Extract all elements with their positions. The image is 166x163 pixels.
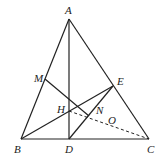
label-M: M [33, 72, 44, 84]
label-B: B [14, 143, 21, 155]
diagram-canvas: A B C D E M H N O [0, 0, 166, 163]
segment-DE [69, 86, 113, 139]
label-N: N [95, 104, 104, 116]
label-A: A [64, 4, 72, 16]
label-E: E [116, 75, 124, 87]
geometry-diagram: A B C D E M H N O [0, 0, 166, 163]
label-D: D [64, 143, 73, 155]
segment-MN [45, 79, 89, 116]
label-H: H [56, 103, 66, 115]
label-O: O [108, 114, 116, 126]
point-labels: A B C D E M H N O [14, 4, 155, 155]
label-C: C [147, 143, 155, 155]
